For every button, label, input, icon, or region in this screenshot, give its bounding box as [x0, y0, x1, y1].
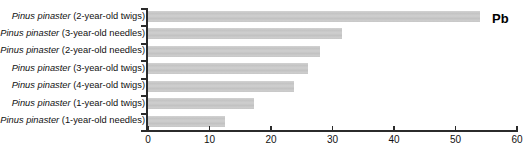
species-name: Pinus pinaster [12, 98, 71, 108]
species-name: Pinus pinaster [12, 63, 71, 73]
bar[interactable] [148, 63, 308, 74]
bar[interactable] [148, 81, 294, 92]
x-axis-tick [270, 126, 272, 131]
category-label: Pinus pinaster (1-year-old twigs) [12, 98, 145, 109]
x-axis-tick-label: 50 [450, 134, 461, 146]
tissue-qualifier: (4-year-old twigs) [71, 80, 145, 90]
bar-row [148, 8, 517, 25]
category-label: Pinus pinaster (3-year-old needles) [0, 28, 145, 39]
tissue-qualifier: (2-year-old twigs) [71, 11, 145, 21]
bar-row [148, 78, 517, 95]
tissue-qualifier: (3-year-old needles) [59, 28, 145, 38]
bar[interactable] [148, 116, 225, 127]
y-axis-tick [141, 95, 147, 97]
bar-chart: Pb Pinus pinaster (2-year-old twigs)Pinu… [0, 0, 525, 155]
x-axis-tick-label: 10 [204, 134, 215, 146]
bar-row [148, 25, 517, 42]
tissue-qualifier: (2-year-old needles) [59, 45, 145, 55]
species-name: Pinus pinaster [12, 11, 71, 21]
bar[interactable] [148, 28, 342, 39]
bar-row [148, 60, 517, 77]
x-axis-tick-label: 20 [265, 134, 276, 146]
x-axis-tick [147, 126, 149, 131]
bar[interactable] [148, 46, 320, 57]
x-axis-tick [393, 126, 395, 131]
x-axis-tick [516, 126, 518, 131]
y-axis-tick [141, 8, 147, 10]
category-label: Pinus pinaster (3-year-old twigs) [12, 63, 145, 74]
tissue-qualifier: (3-year-old twigs) [71, 63, 145, 73]
x-axis-tick-label: 40 [388, 134, 399, 146]
y-axis-tick [141, 60, 147, 62]
x-axis-tick-label: 30 [327, 134, 338, 146]
y-axis-tick [141, 25, 147, 27]
tissue-qualifier: (1-year-old twigs) [71, 98, 145, 108]
y-axis-tick [141, 78, 147, 80]
bar[interactable] [148, 11, 480, 22]
category-label: Pinus pinaster (1-year-old needles) [0, 115, 145, 126]
category-label: Pinus pinaster (4-year-old twigs) [12, 80, 145, 91]
y-axis-tick [141, 113, 147, 115]
category-label: Pinus pinaster (2-year-old needles) [0, 45, 145, 56]
x-axis-tick-label: 60 [511, 134, 522, 146]
x-axis-tick-label: 0 [145, 134, 151, 146]
species-name: Pinus pinaster [0, 115, 59, 125]
species-name: Pinus pinaster [0, 45, 59, 55]
species-name: Pinus pinaster [0, 28, 59, 38]
bar[interactable] [148, 98, 254, 109]
x-axis-tick [455, 126, 457, 131]
tissue-qualifier: (1-year-old needles) [59, 115, 145, 125]
bar-row [148, 43, 517, 60]
x-axis-tick [209, 126, 211, 131]
y-axis-tick [141, 43, 147, 45]
species-name: Pinus pinaster [12, 80, 71, 90]
y-axis-tick [141, 130, 147, 132]
category-label: Pinus pinaster (2-year-old twigs) [12, 11, 145, 22]
x-axis-tick [332, 126, 334, 131]
plot-area [148, 8, 517, 130]
bar-row [148, 95, 517, 112]
